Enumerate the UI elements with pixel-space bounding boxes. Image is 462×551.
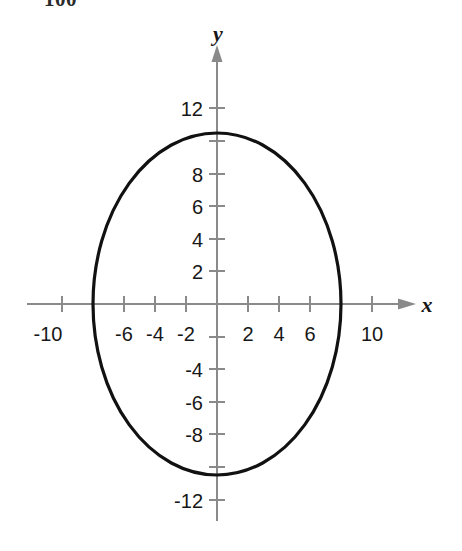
x-tick-label--6: -6 <box>115 323 133 345</box>
x-tick-label-6: 6 <box>304 323 315 345</box>
y-tick-label-6: 6 <box>192 196 203 218</box>
x-tick-label-2: 2 <box>242 323 253 345</box>
y-tick-label--6: -6 <box>185 392 203 414</box>
x-tick-label--2: -2 <box>177 323 195 345</box>
x-tick-label--4: -4 <box>146 323 164 345</box>
x-tick-label-10: 10 <box>361 323 383 345</box>
y-tick-label--12: -12 <box>174 490 203 512</box>
y-tick-label-2: 2 <box>192 261 203 283</box>
y-tick-label-4: 4 <box>192 229 203 251</box>
y-tick-label--4: -4 <box>185 359 203 381</box>
y-tick-label-8: 8 <box>192 164 203 186</box>
figure-root: 100 <box>0 0 462 551</box>
x-tick-label-4: 4 <box>273 323 284 345</box>
y-tick-label-12: 12 <box>181 98 203 120</box>
x-axis-arrowhead <box>398 299 416 310</box>
x-axis-label: x <box>421 292 433 317</box>
coordinate-plane-plot: -10 -6 -4 -2 2 4 6 10 12 8 6 4 2 -4 -6 -… <box>0 0 462 551</box>
y-axis-arrowhead <box>212 45 223 62</box>
y-tick-label--8: -8 <box>185 424 203 446</box>
x-tick-label--10: -10 <box>34 323 63 345</box>
y-axis-label: y <box>210 21 223 46</box>
